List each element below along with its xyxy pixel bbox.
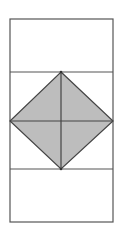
bottom-vertex-dot (60, 168, 63, 171)
geometry-diagram (0, 0, 119, 241)
top-vertex-dot (60, 71, 63, 74)
